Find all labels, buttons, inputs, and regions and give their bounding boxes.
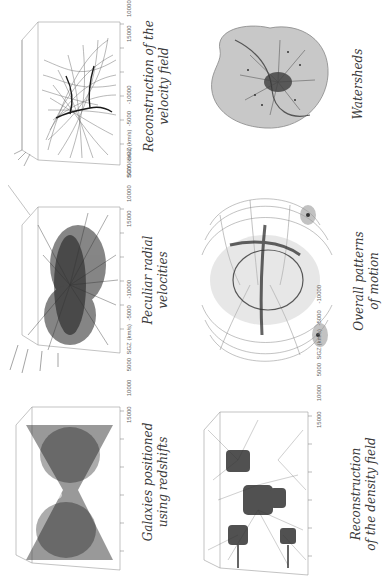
radial-velocities-plot: 15000 10000 5000 SGZ (km/s) -5000 -10000 — [8, 185, 133, 375]
watersheds-render — [200, 20, 335, 135]
caption-galaxies: Galaxies positioned using redshifts — [141, 422, 173, 542]
density-field-z-ticks: 15000 10000 5000 SGZ (km/s) -5000 -10000 — [316, 285, 322, 428]
caption-overall-motion: Overall patterns of motion — [352, 231, 384, 331]
velocity-field-plot: 15000 10000 5000 SGZ (km/s) -5000 -10000… — [8, 0, 133, 180]
velocity-field-graphic — [8, 0, 133, 180]
galaxies-z-ticks: 15000 10000 5000 SGZ (km/s) -5000 -10000 — [126, 280, 132, 423]
galaxies-plot: 15000 10000 5000 SGZ (km/s) -5000 -10000 — [8, 385, 133, 584]
caption-radial-velocities: Peculiar radial velocities — [141, 225, 173, 335]
caption-density-field: Reconstruction of the density field — [349, 429, 381, 559]
density-field-plot: 15000 10000 5000 SGZ (km/s) -5000 -10000 — [198, 390, 338, 584]
caption-velocity-field: Reconstruction of the velocity field — [142, 16, 174, 156]
galaxies-graphic — [8, 385, 133, 584]
radial-velocities-graphic — [8, 185, 133, 375]
velocity-field-z-ticks: 15000 10000 5000 SGZ (km/s) -5000 -10000 — [126, 0, 132, 42]
caption-watersheds: Watersheds — [351, 44, 369, 124]
radial-velocities-z-ticks: 15000 10000 5000 SGZ (km/s) -5000 -10000 — [126, 86, 132, 228]
watersheds-graphic — [200, 20, 335, 135]
